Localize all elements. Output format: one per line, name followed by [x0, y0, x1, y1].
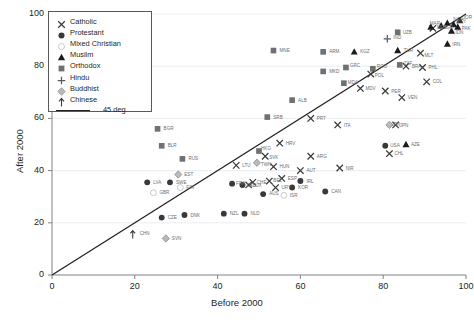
- point-label: HKG: [261, 146, 271, 151]
- point-label: AZE: [411, 142, 420, 147]
- point-label: ZAF: [404, 61, 413, 66]
- data-markers: [130, 17, 463, 242]
- point-label: IRL: [306, 179, 313, 184]
- point-label: ISR: [290, 193, 298, 198]
- reference-line-swatch: [56, 110, 90, 111]
- point-label: AUS: [269, 191, 278, 196]
- diamond-icon: [55, 83, 68, 94]
- point-label: ARM: [329, 49, 339, 54]
- x-tick-label: 100: [458, 281, 474, 291]
- point-label: URY: [282, 185, 292, 190]
- legend-label: Buddhist: [70, 84, 99, 93]
- point-label: MKD: [329, 69, 339, 74]
- point-label: VEN: [408, 95, 417, 100]
- point-label: AUT: [306, 168, 315, 173]
- point-label: POL: [375, 73, 384, 78]
- legend-label: Muslim: [70, 50, 93, 59]
- legend-box[interactable]: CatholicProtestantMixed ChristianMuslimO…: [48, 11, 152, 112]
- point-label: COL: [433, 79, 442, 84]
- point-label: RUS: [188, 156, 198, 161]
- legend-label: Protestant: [70, 28, 104, 37]
- point-label: EST: [184, 172, 193, 177]
- y-tick-label: 80: [20, 60, 44, 70]
- point-label: PER: [391, 89, 400, 94]
- x-icon: [55, 16, 68, 27]
- point-label: CAN: [331, 189, 341, 194]
- point-label: SRB: [273, 115, 282, 120]
- x-tick-label: 0: [44, 281, 60, 291]
- legend-item-orthodox[interactable]: Orthodox: [55, 60, 100, 71]
- point-label: NZL: [230, 211, 239, 216]
- circle-icon: [55, 27, 68, 38]
- point-label: IDN: [456, 30, 464, 35]
- point-label: HUN: [279, 164, 289, 169]
- scatter-plot-figure: CHNSVNGBRCZELVASWEDNKNZLNLDBGRBLRRUSESTF…: [0, 0, 474, 325]
- point-label: ARG: [317, 154, 327, 159]
- point-label: MDV: [365, 86, 375, 91]
- open-circle-icon: [55, 38, 68, 49]
- point-label: PHL: [429, 65, 438, 70]
- y-tick-label: 100: [20, 8, 44, 18]
- legend-item-protestant[interactable]: Protestant: [55, 27, 104, 38]
- point-label: PRT: [317, 116, 326, 121]
- legend-item-45-deg[interactable]: 45 deg: [49, 105, 153, 116]
- plus-icon: [55, 72, 68, 83]
- point-label: BRA: [412, 64, 421, 69]
- square-icon: [55, 60, 68, 71]
- triangle-icon: [55, 49, 68, 60]
- point-label: IRN: [452, 42, 460, 47]
- x-axis-title: Before 2000: [0, 297, 474, 308]
- legend-item-hindu[interactable]: Hindu: [55, 72, 89, 83]
- point-label: JOR: [463, 15, 472, 20]
- legend-item-mixed-christian[interactable]: Mixed Christian: [55, 38, 121, 49]
- point-label: GBR: [159, 190, 169, 195]
- point-label: MAR: [430, 21, 440, 26]
- point-label: KOR: [298, 185, 308, 190]
- legend-label-45-deg: 45 deg: [103, 105, 126, 114]
- point-label: MLT: [424, 53, 433, 58]
- point-label: NIR: [346, 166, 354, 171]
- point-label: ROU: [377, 64, 387, 69]
- point-label: JPN: [400, 123, 409, 128]
- legend-item-catholic[interactable]: Catholic: [55, 16, 97, 27]
- point-label: MNE: [279, 48, 289, 53]
- point-label: SWE: [176, 180, 186, 185]
- point-label: TWN: [261, 162, 271, 167]
- point-label: CHE: [257, 180, 267, 185]
- legend-label: Hindu: [70, 73, 89, 82]
- point-label: GRC: [350, 63, 360, 68]
- point-label: LVA: [153, 180, 161, 185]
- point-label: IND: [393, 35, 401, 40]
- point-label: DNK: [190, 213, 200, 218]
- point-label: CHL: [394, 151, 403, 156]
- legend-label: Chinese: [70, 95, 97, 104]
- x-tick-label: 60: [292, 281, 308, 291]
- point-label: DEU: [246, 183, 256, 188]
- point-label: FRA: [236, 181, 245, 186]
- point-label: ESP: [288, 176, 297, 181]
- point-label: CHN: [140, 231, 150, 236]
- point-label: TUR: [404, 48, 413, 53]
- arrow-icon: [55, 94, 68, 105]
- y-axis-title: After 2000: [14, 129, 25, 173]
- x-tick-label: 20: [127, 281, 143, 291]
- y-tick-label: 20: [20, 217, 44, 227]
- point-label: BEL: [273, 178, 282, 183]
- point-label: HRV: [286, 141, 296, 146]
- point-label: CZE: [168, 215, 177, 220]
- legend-item-buddhist[interactable]: Buddhist: [55, 83, 99, 94]
- point-label: ALB: [298, 98, 307, 103]
- point-label: ITA: [344, 123, 351, 128]
- point-label: UZB: [403, 30, 412, 35]
- point-label: KGZ: [360, 49, 369, 54]
- legend-label: Mixed Christian: [70, 39, 121, 48]
- legend-item-chinese[interactable]: Chinese: [55, 94, 97, 105]
- x-tick-label: 80: [375, 281, 391, 291]
- point-label: USA: [390, 143, 399, 148]
- y-tick-label: 0: [20, 269, 44, 279]
- x-tick-label: 40: [210, 281, 226, 291]
- point-label: FIN: [186, 185, 193, 190]
- legend-item-muslim[interactable]: Muslim: [55, 49, 93, 60]
- point-label: BLR: [168, 143, 177, 148]
- point-label: SVN: [172, 236, 181, 241]
